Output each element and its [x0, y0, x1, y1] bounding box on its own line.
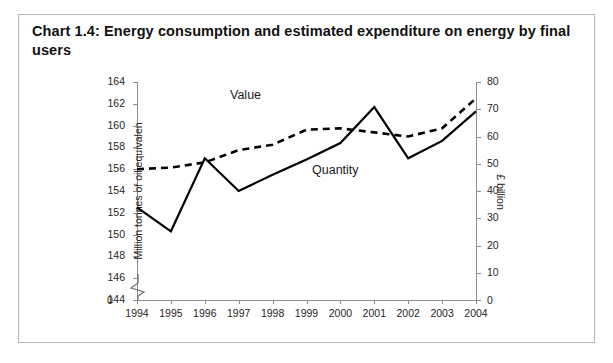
- right-tick-mark: [477, 137, 481, 138]
- right-tick-label: 20: [487, 240, 527, 251]
- x-tick-mark: [205, 300, 206, 304]
- x-tick-mark: [408, 300, 409, 304]
- left-tick-label: 152: [85, 207, 125, 218]
- x-tick-mark: [137, 300, 138, 304]
- left-tick-label: 148: [85, 250, 125, 261]
- left-tick-label: 154: [85, 185, 125, 196]
- x-tick-mark: [442, 300, 443, 304]
- right-tick-label: 70: [487, 103, 527, 114]
- left-tick-label: 158: [85, 141, 125, 152]
- quantity-series-label: Quantity: [312, 163, 359, 177]
- left-tick-label: 150: [85, 229, 125, 240]
- right-tick-label: 50: [487, 158, 527, 169]
- x-tick-mark: [374, 300, 375, 304]
- right-tick-mark: [477, 164, 481, 165]
- x-tick-mark: [273, 300, 274, 304]
- right-tick-mark: [477, 218, 481, 219]
- x-tick-mark: [476, 300, 477, 304]
- x-tick-mark: [307, 300, 308, 304]
- right-tick-mark: [477, 191, 481, 192]
- x-tick-label: 2004: [456, 308, 496, 319]
- left-tick-label: 164: [85, 76, 125, 87]
- left-tick-label: 156: [85, 163, 125, 174]
- right-tick-label: 40: [487, 185, 527, 196]
- left-tick-label: 146: [85, 272, 125, 283]
- series-lines: [137, 82, 477, 300]
- right-tick-label: 80: [487, 76, 527, 87]
- left-tick-label: 162: [85, 98, 125, 109]
- chart-title: Chart 1.4: Energy consumption and estima…: [32, 22, 572, 61]
- right-tick-label: 30: [487, 212, 527, 223]
- plot-area: Million tonnes of oil equivalen £ billio…: [137, 82, 477, 300]
- right-tick-mark: [477, 109, 481, 110]
- right-tick-label: 10: [487, 267, 527, 278]
- left-tick-label: 160: [85, 120, 125, 131]
- right-axis-zero-label: 0: [487, 295, 493, 306]
- left-tick-label: 144: [85, 294, 125, 305]
- x-tick-mark: [171, 300, 172, 304]
- quantity-series-line: [137, 107, 476, 231]
- right-tick-mark: [477, 300, 481, 301]
- value-series-label: Value: [230, 88, 261, 102]
- x-tick-mark: [239, 300, 240, 304]
- right-tick-mark: [477, 82, 481, 83]
- right-tick-mark: [477, 246, 481, 247]
- right-tick-mark: [477, 273, 481, 274]
- x-tick-mark: [340, 300, 341, 304]
- right-tick-label: 60: [487, 131, 527, 142]
